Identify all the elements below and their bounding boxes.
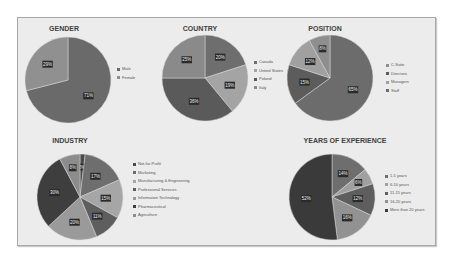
legend: 1-5 years6-10 years11-15 years16-20 year… (385, 172, 424, 215)
data-label: 6% (355, 180, 362, 185)
legend-swatch-icon (385, 209, 388, 212)
legend-swatch-icon (385, 183, 388, 186)
pie-slice (289, 154, 337, 240)
data-label: 14% (338, 171, 347, 176)
pie-years-of-experience: 14%6%12%16%52% (0, 0, 450, 262)
legend-label: 6-10 years (390, 181, 409, 190)
data-label: 16% (343, 215, 352, 220)
legend-label: 1-5 years (390, 172, 407, 181)
data-label: 12% (353, 196, 362, 201)
legend-item: 11-15 years (385, 189, 424, 198)
legend-item: More than 20 years (385, 206, 424, 215)
legend-item: 16-20 years (385, 198, 424, 207)
legend-label: 16-20 years (390, 198, 411, 207)
legend-label: More than 20 years (390, 206, 424, 215)
legend-item: 1-5 years (385, 172, 424, 181)
legend-item: 6-10 years (385, 181, 424, 190)
legend-swatch-icon (385, 200, 388, 203)
legend-swatch-icon (385, 175, 388, 178)
data-label: 52% (302, 196, 311, 201)
legend-label: 11-15 years (390, 189, 411, 198)
legend-swatch-icon (385, 192, 388, 195)
